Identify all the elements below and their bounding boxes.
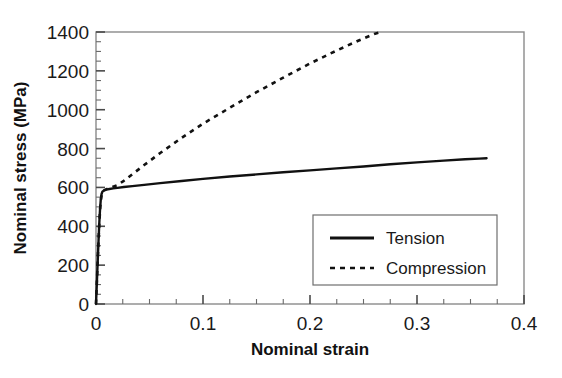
x-axis-title: Nominal strain <box>251 340 369 359</box>
y-tick-label: 400 <box>57 216 89 237</box>
y-axis-title: Nominal stress (MPa) <box>11 82 30 255</box>
x-tick-label: 0.4 <box>511 313 538 334</box>
legend-label-tension: Tension <box>386 229 445 248</box>
stress-strain-chart: 0200400600800100012001400 00.10.20.30.4 … <box>0 0 562 378</box>
chart-legend: Tension Compression <box>313 215 497 285</box>
chart-page: 0200400600800100012001400 00.10.20.30.4 … <box>0 0 562 378</box>
x-tick-label: 0 <box>91 313 102 334</box>
y-tick-label: 1000 <box>47 100 89 121</box>
y-tick-label: 0 <box>78 294 89 315</box>
x-tick-label: 0.1 <box>190 313 216 334</box>
y-tick-label: 1200 <box>47 61 89 82</box>
x-tick-label: 0.3 <box>404 313 430 334</box>
y-tick-label: 200 <box>57 255 89 276</box>
x-tick-label: 0.2 <box>297 313 323 334</box>
y-tick-label: 600 <box>57 177 89 198</box>
legend-label-compression: Compression <box>386 259 486 278</box>
y-tick-label: 800 <box>57 139 89 160</box>
y-tick-label: 1400 <box>47 22 89 43</box>
